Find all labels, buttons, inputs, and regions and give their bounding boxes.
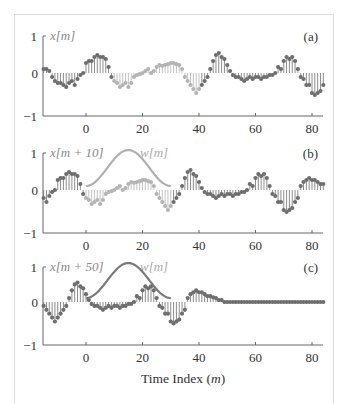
stem-marker xyxy=(228,69,232,73)
x-tick-label: 80 xyxy=(306,238,319,253)
stem-marker xyxy=(211,59,215,63)
stem-marker xyxy=(299,184,303,188)
stem-marker xyxy=(163,204,167,208)
stem-marker xyxy=(296,67,300,71)
stem-marker xyxy=(81,286,85,290)
window-label: w[m] xyxy=(140,259,168,274)
stem-marker xyxy=(64,85,68,89)
stem-marker xyxy=(47,312,51,316)
stem-marker xyxy=(197,180,201,184)
stem-marker xyxy=(61,308,65,312)
stem-marker xyxy=(194,174,198,178)
stem-marker xyxy=(87,198,91,202)
stem-marker xyxy=(177,192,181,196)
stem-marker xyxy=(75,280,79,284)
stem-marker xyxy=(186,79,190,83)
stem-marker xyxy=(132,300,136,304)
stem-marker xyxy=(53,319,57,323)
y-tick-label-1: 1 xyxy=(31,29,38,44)
stem-marker xyxy=(138,296,142,300)
panel-tag: (c) xyxy=(304,260,318,275)
panel-b: 10−1020406080(b)x[m + 10]w[m] xyxy=(23,145,325,253)
stem-marker xyxy=(149,180,153,184)
x-tick-label: 0 xyxy=(83,121,90,136)
y-tick-label-1: 1 xyxy=(31,260,38,275)
y-tick-label-neg1: −1 xyxy=(23,338,37,353)
stem-marker xyxy=(107,65,111,69)
stem-marker xyxy=(152,69,156,73)
stem-marker xyxy=(81,192,85,196)
series-label: x[m + 50] xyxy=(49,259,104,274)
x-tick-label: 20 xyxy=(136,121,149,136)
stem-marker xyxy=(290,206,294,210)
stem-marker xyxy=(90,59,94,63)
stem-marker xyxy=(200,186,204,190)
stem-marker xyxy=(109,75,113,79)
stem-marker xyxy=(203,79,207,83)
stem-marker xyxy=(78,182,82,186)
stem-marker xyxy=(67,296,71,300)
stem-marker xyxy=(307,83,311,87)
stem-marker xyxy=(273,71,277,75)
stem-marker xyxy=(75,77,79,81)
stem-marker xyxy=(265,176,269,180)
x-tick-label: 20 xyxy=(136,350,149,365)
stem-marker xyxy=(123,81,127,85)
series-label: x[m + 10] xyxy=(49,145,104,160)
x-tick-label: 0 xyxy=(83,238,90,253)
stem-marker xyxy=(191,87,195,91)
stem-marker xyxy=(47,69,51,73)
stem-marker xyxy=(61,176,65,180)
x-axis-label: Time Index (m) xyxy=(141,371,225,386)
stem-marker xyxy=(225,63,229,67)
stem-marker xyxy=(81,71,85,75)
x-tick-label: 20 xyxy=(136,238,149,253)
stem-marker xyxy=(293,59,297,63)
stem-marker xyxy=(205,75,209,79)
series-label: x[m] xyxy=(49,28,75,43)
y-tick-label-0: 0 xyxy=(32,295,39,310)
stem-marker xyxy=(58,312,62,316)
stem-marker xyxy=(301,77,305,81)
stem-marker xyxy=(98,202,102,206)
stem-marker xyxy=(160,200,164,204)
stem-marker xyxy=(53,188,57,192)
panel-a: 10−1020406080(a)x[m] xyxy=(23,28,325,136)
panel-tag: (b) xyxy=(303,146,318,161)
stem-marker xyxy=(70,79,74,83)
stem-marker xyxy=(64,304,68,308)
stem-marker xyxy=(169,204,173,208)
stem-marker xyxy=(183,308,187,312)
stem-marker xyxy=(282,59,286,63)
stem-marker xyxy=(318,89,322,93)
stem-marker xyxy=(155,192,159,196)
stem-marker xyxy=(321,182,325,186)
x-tick-label: 80 xyxy=(306,121,319,136)
x-tick-label: 40 xyxy=(193,350,206,365)
stem-marker xyxy=(174,196,178,200)
stem-marker xyxy=(186,296,190,300)
x-tick-label: 60 xyxy=(249,350,262,365)
stem-marker xyxy=(321,300,325,304)
panel-c: 10−1020406080(c)x[m + 50]w[m] xyxy=(23,259,325,365)
stem-marker xyxy=(222,57,226,61)
stem-marker xyxy=(126,85,130,89)
stem-marker xyxy=(123,186,127,190)
stem-marker xyxy=(251,184,255,188)
stem-marker xyxy=(118,184,122,188)
x-tick-label: 40 xyxy=(193,121,206,136)
stem-marker xyxy=(194,91,198,95)
stem-marker xyxy=(296,196,300,200)
stem-marker xyxy=(183,75,187,79)
stem-marker xyxy=(279,67,283,71)
stem-marker xyxy=(115,81,119,85)
x-tick-label: 80 xyxy=(306,350,319,365)
y-tick-label-0: 0 xyxy=(32,66,39,81)
y-tick-label-neg1: −1 xyxy=(23,226,37,241)
stem-marker xyxy=(253,176,257,180)
stem-marker xyxy=(208,67,212,71)
y-tick-label-1: 1 xyxy=(31,146,38,161)
stem-marker xyxy=(171,200,175,204)
stem-marker xyxy=(152,184,156,188)
stem-marker xyxy=(177,63,181,67)
